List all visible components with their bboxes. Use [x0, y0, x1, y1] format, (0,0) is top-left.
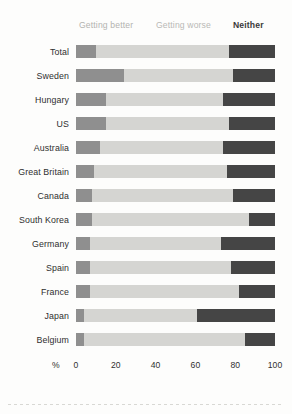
chart-row: US [0, 112, 292, 136]
bar-segment-neither [223, 141, 275, 154]
row-label-great-britain: Great Britain [0, 160, 69, 184]
page-edge-divider [8, 404, 284, 405]
chart-container: Getting better Getting worse Neither Tot… [0, 0, 292, 414]
bar-segment-getting-worse [90, 261, 231, 274]
chart-legend: Getting better Getting worse Neither [0, 18, 292, 34]
row-label-hungary: Hungary [0, 88, 69, 112]
bar-segment-getting-worse [94, 165, 227, 178]
row-label-belgium: Belgium [0, 328, 69, 352]
bar-segment-getting-worse [100, 141, 223, 154]
bar-segment-neither [233, 69, 275, 82]
row-label-japan: Japan [0, 304, 69, 328]
bar-segment-getting-better [76, 213, 92, 226]
bar-segment-neither [245, 333, 275, 346]
bar-segment-getting-worse [106, 117, 229, 130]
stacked-bar [76, 69, 275, 82]
stacked-bar [76, 45, 275, 58]
stacked-bar [76, 285, 275, 298]
chart-row: Total [0, 40, 292, 64]
stacked-bar [76, 141, 275, 154]
bar-segment-getting-better [76, 93, 106, 106]
bar-segment-getting-better [76, 189, 92, 202]
x-tick-label-0: 0 [64, 360, 88, 370]
x-tick-label-20: 20 [104, 360, 128, 370]
bar-segment-getting-worse [96, 45, 229, 58]
bar-segment-neither [227, 165, 275, 178]
row-label-spain: Spain [0, 256, 69, 280]
bar-segment-getting-better [76, 261, 90, 274]
bar-segment-neither [229, 117, 275, 130]
bar-segment-getting-worse [106, 93, 223, 106]
chart-plot-area: TotalSwedenHungaryUSAustraliaGreat Brita… [0, 40, 292, 352]
bar-segment-getting-better [76, 333, 84, 346]
bar-segment-getting-better [76, 237, 90, 250]
bar-segment-getting-better [76, 285, 90, 298]
stacked-bar [76, 261, 275, 274]
stacked-bar [76, 93, 275, 106]
bar-segment-neither [233, 189, 275, 202]
chart-row: Belgium [0, 328, 292, 352]
bar-segment-neither [197, 309, 275, 322]
row-label-us: US [0, 112, 69, 136]
chart-row: Hungary [0, 88, 292, 112]
bar-segment-getting-worse [84, 309, 197, 322]
x-tick-label-100: 100 [263, 360, 287, 370]
bar-segment-getting-worse [92, 189, 233, 202]
bar-segment-getting-worse [84, 333, 245, 346]
bar-segment-getting-better [76, 117, 106, 130]
bar-segment-getting-better [76, 69, 124, 82]
row-label-sweden: Sweden [0, 64, 69, 88]
stacked-bar [76, 333, 275, 346]
stacked-bar [76, 309, 275, 322]
bar-segment-neither [223, 93, 275, 106]
row-label-south-korea: South Korea [0, 208, 69, 232]
x-axis: % 020406080100 [0, 356, 292, 380]
bar-segment-neither [239, 285, 275, 298]
bar-segment-getting-worse [90, 237, 221, 250]
bar-segment-getting-better [76, 141, 100, 154]
bar-segment-getting-better [76, 165, 94, 178]
row-label-germany: Germany [0, 232, 69, 256]
bar-segment-neither [229, 45, 275, 58]
x-tick-label-40: 40 [144, 360, 168, 370]
bar-segment-neither [249, 213, 275, 226]
legend-item-getting-better: Getting better [79, 18, 133, 32]
bar-segment-neither [221, 237, 275, 250]
chart-row: Great Britain [0, 160, 292, 184]
x-tick-label-80: 80 [223, 360, 247, 370]
chart-row: Japan [0, 304, 292, 328]
stacked-bar [76, 165, 275, 178]
chart-row: Germany [0, 232, 292, 256]
bar-segment-getting-worse [124, 69, 233, 82]
row-label-total: Total [0, 40, 69, 64]
bar-segment-getting-worse [90, 285, 239, 298]
legend-item-getting-worse: Getting worse [156, 18, 211, 32]
legend-item-neither: Neither [233, 18, 264, 32]
chart-row: Canada [0, 184, 292, 208]
chart-row: South Korea [0, 208, 292, 232]
axis-unit-label: % [52, 360, 60, 370]
row-label-canada: Canada [0, 184, 69, 208]
stacked-bar [76, 117, 275, 130]
bar-segment-getting-better [76, 309, 84, 322]
bar-segment-getting-better [76, 45, 96, 58]
chart-row: Sweden [0, 64, 292, 88]
bar-segment-getting-worse [92, 213, 249, 226]
chart-row: Australia [0, 136, 292, 160]
stacked-bar [76, 213, 275, 226]
stacked-bar [76, 189, 275, 202]
chart-row: France [0, 280, 292, 304]
chart-row: Spain [0, 256, 292, 280]
row-label-france: France [0, 280, 69, 304]
bar-segment-neither [231, 261, 275, 274]
row-label-australia: Australia [0, 136, 69, 160]
x-tick-label-60: 60 [183, 360, 207, 370]
stacked-bar [76, 237, 275, 250]
